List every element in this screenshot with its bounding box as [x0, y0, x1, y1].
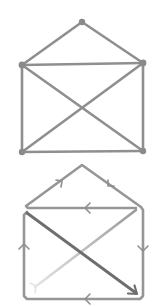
start-tick-icon: [30, 283, 36, 293]
figure-canvas: [0, 0, 159, 307]
vertex-top-right: [140, 60, 147, 67]
path-segment-start-diagonal: [35, 210, 136, 287]
vertex-bottom-left: [19, 149, 25, 155]
edge-roof-right: [82, 22, 143, 63]
euler-path-drawing: [19, 165, 148, 304]
edge-top: [22, 63, 143, 65]
edge-roof-left: [22, 22, 82, 65]
vertex-bottom-right: [140, 148, 146, 154]
path-segment-perimeter: [24, 165, 143, 299]
house-graph: [19, 19, 147, 155]
vertex-top-left: [19, 62, 26, 69]
vertex-apex: [79, 19, 85, 25]
edge-bottom: [22, 151, 143, 152]
